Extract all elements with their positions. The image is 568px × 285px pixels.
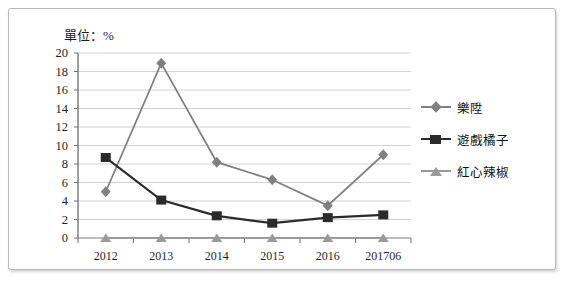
y-axis-tick-label: 0 — [42, 232, 68, 245]
legend-label-1: 遊戲橘子 — [457, 130, 509, 149]
y-axis-tick-label: 14 — [42, 103, 68, 116]
chart-frame: 單位：% 樂陞 遊戲橘子 紅心辣椒 0246810121416182020122… — [8, 8, 556, 270]
legend-item-2[interactable]: 紅心辣椒 — [421, 155, 551, 187]
x-axis-tick-label: 2013 — [134, 250, 190, 262]
square-marker-icon — [421, 132, 451, 146]
legend-label-0: 樂陞 — [457, 98, 483, 117]
x-axis-tick-label: 2014 — [189, 250, 245, 262]
y-axis-tick-label: 18 — [42, 66, 68, 79]
y-axis-tick-label: 10 — [42, 140, 68, 153]
legend-item-1[interactable]: 遊戲橘子 — [421, 123, 551, 155]
x-axis-tick-label: 201706 — [356, 250, 412, 262]
y-axis-tick-label: 2 — [42, 214, 68, 227]
y-axis-tick-label: 16 — [42, 84, 68, 97]
y-axis-tick-label: 8 — [42, 158, 68, 171]
legend-item-0[interactable]: 樂陞 — [421, 91, 551, 123]
diamond-marker-icon — [421, 100, 451, 114]
y-axis-tick-label: 4 — [42, 195, 68, 208]
triangle-marker-icon — [421, 164, 451, 178]
x-axis-tick-label: 2015 — [245, 250, 301, 262]
y-axis-tick-label: 6 — [42, 177, 68, 190]
chart-legend: 樂陞 遊戲橘子 紅心辣椒 — [421, 91, 551, 187]
legend-label-2: 紅心辣椒 — [457, 162, 509, 181]
y-axis-tick-label: 12 — [42, 121, 68, 134]
x-axis-tick-label: 2016 — [300, 250, 356, 262]
y-axis-tick-label: 20 — [42, 47, 68, 60]
x-axis-tick-label: 2012 — [78, 250, 134, 262]
